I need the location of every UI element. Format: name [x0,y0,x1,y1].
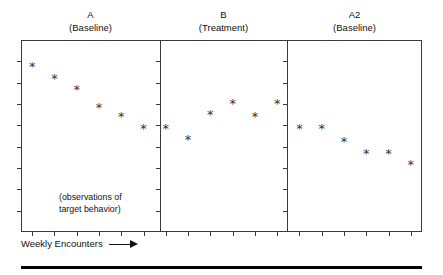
panel-divider-a-b [160,40,161,232]
y-axis-tick [17,61,22,62]
abab-design-figure: A (Baseline) B (Treatment) A2 (Baseline)… [0,0,443,275]
data-point-marker: * [339,136,350,147]
data-point-marker: * [138,123,149,134]
x-axis-tick [166,231,167,236]
panel-title-b-label: B [160,9,287,22]
data-point-marker: * [405,159,416,170]
panel-title-a2: A2 (Baseline) [287,9,422,34]
y-axis-tick [283,168,288,169]
y-axis-tick [283,83,288,84]
x-axis-tick [411,231,412,236]
y-axis-tick [17,168,22,169]
y-axis-tick [17,189,22,190]
y-axis-tick [283,61,288,62]
y-axis-tick [283,147,288,148]
y-axis-tick [156,83,161,84]
y-axis-tick [17,211,22,212]
panel-title-a2-sublabel: (Baseline) [287,22,422,35]
data-point-marker: * [49,73,60,84]
y-axis-tick [17,147,22,148]
right-arrow-icon [109,240,139,249]
data-point-marker: * [205,109,216,120]
x-axis-tick [389,231,390,236]
bottom-rule [21,266,422,269]
data-point-marker: * [27,61,38,72]
y-axis-tick [283,125,288,126]
x-axis-tick [233,231,234,236]
x-axis-tick [277,231,278,236]
x-axis-tick [322,231,323,236]
panel-title-b: B (Treatment) [160,9,287,34]
xaxis-label: Weekly Encounters [21,238,139,250]
x-axis-tick [144,231,145,236]
data-point-marker: * [160,123,171,134]
panel-title-a-label: A [21,9,160,22]
xaxis-label-text: Weekly Encounters [21,238,103,250]
plot-annotation-line-1: (observations of [59,192,122,204]
y-axis-tick [156,104,161,105]
x-axis-tick [299,231,300,236]
y-axis-tick [17,104,22,105]
data-point-marker: * [383,148,394,159]
data-point-marker: * [183,134,194,145]
x-axis-tick [255,231,256,236]
x-axis-tick [344,231,345,236]
x-axis-tick [366,231,367,236]
y-axis-tick [156,189,161,190]
y-axis-tick [283,189,288,190]
data-point-marker: * [116,111,127,122]
y-axis-tick [156,168,161,169]
plot-annotation: (observations of target behavior) [59,192,122,215]
data-point-marker: * [71,84,82,95]
x-axis-tick [121,231,122,236]
data-point-marker: * [272,98,283,109]
panel-title-a: A (Baseline) [21,9,160,34]
data-point-marker: * [227,98,238,109]
x-axis-tick [210,231,211,236]
x-axis-tick [99,231,100,236]
panel-divider-b-a2 [287,40,288,232]
panel-title-a-sublabel: (Baseline) [21,22,160,35]
y-axis-tick [283,104,288,105]
data-point-marker: * [93,102,104,113]
x-axis-tick [54,231,55,236]
data-point-marker: * [294,123,305,134]
x-axis-tick [32,231,33,236]
y-axis-tick [156,211,161,212]
data-point-marker: * [361,148,372,159]
panel-title-b-sublabel: (Treatment) [160,22,287,35]
x-axis-tick [77,231,78,236]
y-axis-tick [283,211,288,212]
data-point-marker: * [316,123,327,134]
data-point-marker: * [249,111,260,122]
plot-frame: (observations of target behavior) [21,40,422,232]
y-axis-tick [156,147,161,148]
plot-annotation-line-2: target behavior) [59,204,122,216]
panel-title-a2-label: A2 [287,9,422,22]
y-axis-tick [17,83,22,84]
x-axis-tick [188,231,189,236]
y-axis-tick [17,125,22,126]
y-axis-tick [156,61,161,62]
